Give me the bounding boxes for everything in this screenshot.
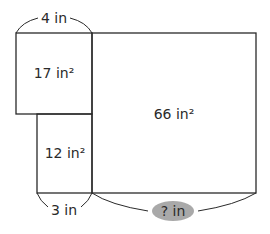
top-width-label: 4 in [41,10,67,26]
bottom-width-label: 3 in [51,202,77,218]
unknown-width-label: ? in [161,203,186,219]
unknown-width-brace [92,193,148,211]
bottom-left-brace [37,193,48,207]
top-brace [16,18,38,33]
area-label-bottom-left: 12 in² [45,145,86,161]
area-label-right: 66 in² [154,106,195,122]
area-label-top-left: 17 in² [34,65,75,81]
area-model-diagram: 4 in 3 in ? in 17 in² 12 in² 66 in² [0,0,270,234]
